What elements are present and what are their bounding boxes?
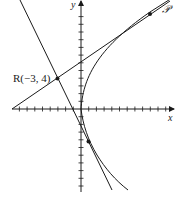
point-R <box>56 77 60 81</box>
tangent-line-lower <box>20 0 112 190</box>
x-axis: x <box>12 107 174 124</box>
x-axis-label: x <box>167 112 173 123</box>
tangent-point-upper <box>148 12 152 16</box>
point-R-label: R(−3, 4) <box>13 72 51 85</box>
curve-label: 𝒫 <box>162 3 173 15</box>
tangent-point-lower <box>87 140 91 144</box>
y-axis-label: y <box>70 0 76 10</box>
tangent-line-upper <box>12 1 170 109</box>
y-axis: y <box>70 0 84 192</box>
curve-upper-branch <box>81 0 172 109</box>
curve-lower-branch <box>81 109 128 190</box>
diagram-canvas: x y <box>0 0 178 199</box>
